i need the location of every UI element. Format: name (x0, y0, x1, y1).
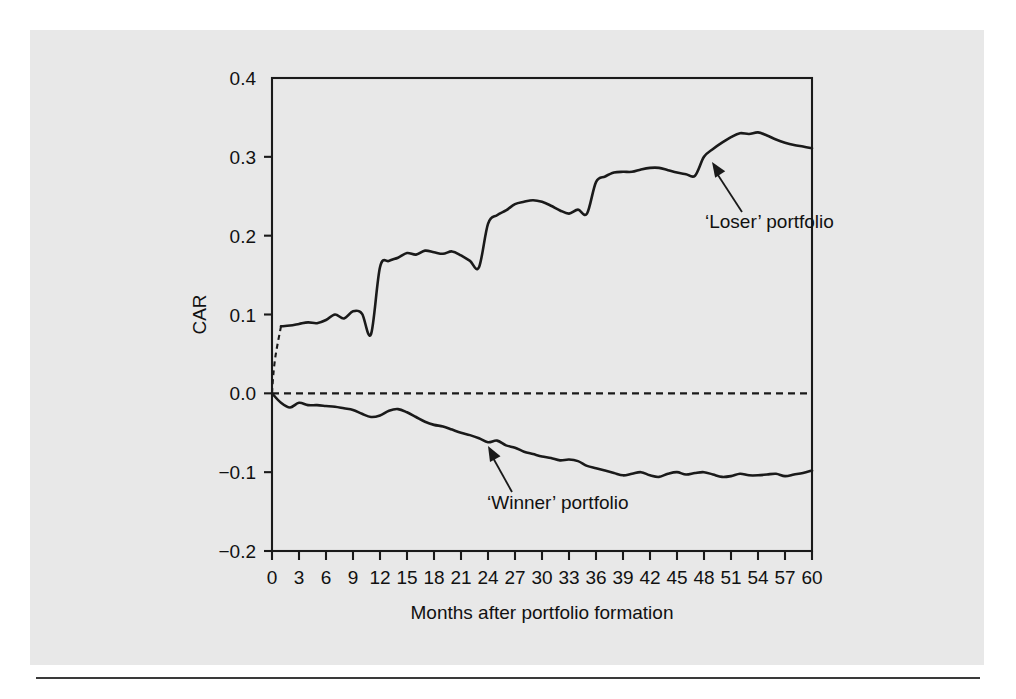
y-axis-tick-label: 0.3 (230, 147, 256, 168)
x-axis-tick-label: 48 (693, 567, 714, 588)
x-axis-tick-label: 0 (267, 567, 278, 588)
series-line-winner (272, 393, 812, 477)
x-axis-tick-label: 21 (450, 567, 471, 588)
annotation-arrowhead-loser (712, 162, 725, 178)
x-axis-tick-label: 18 (423, 567, 444, 588)
x-axis-tick-label: 39 (612, 567, 633, 588)
x-axis-tick-label: 42 (639, 567, 660, 588)
annotation-label-winner: ‘Winner’ portfolio (487, 492, 629, 513)
annotation-arrowhead-winner (488, 446, 501, 462)
x-axis-title: Months after portfolio formation (411, 602, 674, 623)
x-axis-tick-label: 3 (294, 567, 305, 588)
x-axis-tick-label: 27 (504, 567, 525, 588)
x-axis-tick-label: 6 (321, 567, 332, 588)
y-axis-tick-label: 0.4 (230, 68, 257, 89)
series-line-loser (281, 132, 812, 335)
annotation-leader-loser (716, 172, 742, 212)
x-axis-tick-label: 57 (774, 567, 795, 588)
x-axis-tick-label: 51 (720, 567, 741, 588)
x-axis-tick-label: 9 (348, 567, 359, 588)
x-axis-tick-label: 15 (396, 567, 417, 588)
x-axis-tick-label: 45 (666, 567, 687, 588)
y-axis-tick-label: −0.2 (218, 541, 256, 562)
y-axis-tick-label: 0.1 (230, 305, 256, 326)
y-axis-tick-label: 0.0 (230, 383, 256, 404)
annotation-leader-winner (492, 456, 512, 492)
y-axis-title: CAR (189, 294, 210, 334)
x-axis-tick-label: 60 (801, 567, 822, 588)
x-axis-tick-label: 33 (558, 567, 579, 588)
plot-frame (272, 78, 812, 551)
y-axis-tick-label: 0.2 (230, 226, 256, 247)
x-axis-tick-label: 36 (585, 567, 606, 588)
x-axis-tick-label: 24 (477, 567, 499, 588)
bottom-divider (36, 677, 980, 679)
cumulative-abnormal-returns-chart: −0.2−0.10.00.10.20.30.403691215182124273… (0, 0, 1016, 699)
y-axis-tick-label: −0.1 (218, 462, 256, 483)
x-axis-tick-label: 30 (531, 567, 552, 588)
series-lead-in-dashed-0 (272, 326, 281, 393)
x-axis-tick-label: 54 (747, 567, 769, 588)
annotation-label-loser: ‘Loser’ portfolio (705, 211, 834, 232)
x-axis-tick-label: 12 (369, 567, 390, 588)
